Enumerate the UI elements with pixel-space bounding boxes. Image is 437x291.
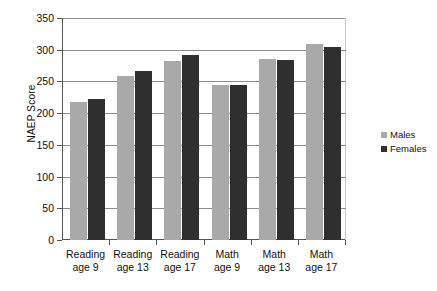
legend-item: Females: [381, 142, 426, 156]
bar-males: [259, 59, 276, 240]
y-axis-tick-label: 50: [8, 202, 54, 214]
naep-score-bar-chart: NAEP Score 350300250200150100500 Reading…: [0, 0, 437, 291]
bar-group: [204, 18, 251, 240]
x-axis-tick-mark: [345, 240, 346, 245]
x-axis-tick-mark: [109, 240, 110, 245]
y-axis-tick-label: 150: [8, 139, 54, 151]
bar-group: [109, 18, 156, 240]
legend-item: Males: [381, 128, 426, 142]
legend-swatch-icon: [381, 132, 387, 138]
legend-label: Males: [390, 128, 415, 142]
bar-group: [156, 18, 203, 240]
plot-right-border: [345, 18, 346, 240]
y-axis-tick-mark: [57, 113, 62, 114]
bar-males: [306, 44, 323, 240]
y-axis-tick-labels: 350300250200150100500: [8, 18, 54, 240]
y-axis-tick-label: 200: [8, 107, 54, 119]
legend-swatch-icon: [381, 146, 387, 152]
bar-males: [164, 61, 181, 240]
bar-females: [182, 55, 199, 240]
bar-group: [298, 18, 345, 240]
bar-females: [135, 71, 152, 240]
bar-females: [88, 99, 105, 240]
x-axis-tick-mark: [204, 240, 205, 245]
y-axis-tick-mark: [57, 50, 62, 51]
bar-males: [70, 102, 87, 240]
y-axis-tick-label: 350: [8, 12, 54, 24]
y-axis-tick-mark: [57, 177, 62, 178]
y-axis-tick-mark: [57, 81, 62, 82]
x-axis-tick-mark: [156, 240, 157, 245]
legend-label: Females: [390, 142, 426, 156]
bar-females: [324, 47, 341, 240]
bar-males: [117, 76, 134, 240]
y-axis-tick-mark: [57, 18, 62, 19]
y-axis-tick-label: 0: [8, 234, 54, 246]
bars-layer: [62, 18, 345, 240]
x-axis-tick-mark: [251, 240, 252, 245]
y-axis-tick-label: 250: [8, 75, 54, 87]
x-axis-tick-mark: [298, 240, 299, 245]
x-axis-label: Mathage 17: [285, 248, 357, 274]
y-axis-tick-mark: [57, 240, 62, 241]
bar-group: [251, 18, 298, 240]
chart-legend: MalesFemales: [381, 128, 426, 156]
bar-females: [230, 85, 247, 240]
bar-females: [277, 60, 294, 240]
y-axis-tick-mark: [57, 145, 62, 146]
bar-group: [62, 18, 109, 240]
y-axis-tick-label: 100: [8, 171, 54, 183]
y-axis-tick-label: 300: [8, 44, 54, 56]
y-axis-tick-mark: [57, 208, 62, 209]
bar-males: [212, 85, 229, 240]
